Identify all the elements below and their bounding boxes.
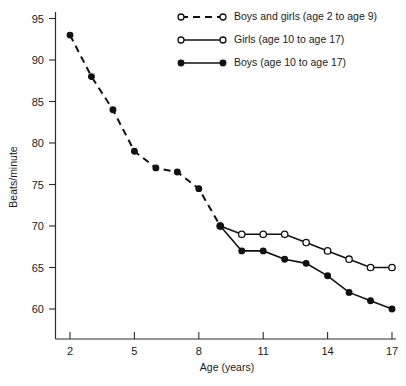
- legend-label: Girls (age 10 to age 17): [234, 33, 344, 45]
- data-point: [367, 264, 373, 270]
- data-point: [325, 273, 331, 279]
- data-point: [110, 107, 116, 113]
- data-point: [196, 186, 202, 192]
- x-tick-label: 14: [321, 345, 333, 357]
- data-point: [89, 74, 95, 80]
- data-series-layer: [67, 32, 395, 312]
- x-tick-label: 5: [131, 345, 137, 357]
- data-point: [239, 231, 245, 237]
- legend-marker-start: [178, 14, 184, 20]
- heart-rate-by-age-chart: 6065707580859095 258111417 Age (years) B…: [0, 0, 406, 386]
- y-tick-label: 90: [32, 54, 44, 66]
- data-point: [239, 248, 245, 254]
- legend-marker-end: [220, 14, 226, 20]
- y-tick-label: 60: [32, 303, 44, 315]
- data-point: [282, 256, 288, 262]
- y-tick-label: 95: [32, 13, 44, 25]
- legend-marker-end: [220, 60, 226, 66]
- chart-legend: Boys and girls (age 2 to age 9)Girls (ag…: [178, 10, 377, 68]
- x-tick-label: 11: [257, 345, 268, 357]
- legend-label: Boys (age 10 to age 17): [234, 56, 346, 68]
- data-point: [153, 165, 159, 171]
- x-axis-title: Age (years): [200, 361, 254, 373]
- data-point: [346, 290, 352, 296]
- data-point: [174, 169, 180, 175]
- y-tick-label: 75: [32, 179, 44, 191]
- data-point: [67, 32, 73, 38]
- data-point: [324, 248, 330, 254]
- data-point: [260, 248, 266, 254]
- y-tick-label: 80: [32, 137, 44, 149]
- data-point: [389, 264, 395, 270]
- data-point: [217, 223, 223, 229]
- x-tick-label: 8: [196, 345, 202, 357]
- x-axis-ticks: 258111417: [67, 332, 398, 357]
- legend-entry-2: Girls (age 10 to age 17): [178, 33, 344, 45]
- legend-entry-1: Boys and girls (age 2 to age 9): [178, 10, 377, 22]
- y-tick-label: 70: [32, 220, 44, 232]
- data-point: [389, 306, 395, 312]
- x-tick-label: 2: [67, 345, 73, 357]
- y-tick-label: 65: [32, 262, 44, 274]
- y-axis: 6065707580859095: [32, 12, 56, 339]
- data-point: [132, 148, 138, 154]
- x-axis: 258111417: [56, 332, 399, 357]
- x-tick-label: 17: [386, 345, 398, 357]
- data-point: [346, 256, 352, 262]
- y-axis-ticks: 6065707580859095: [32, 13, 56, 316]
- data-point: [368, 298, 374, 304]
- data-point: [281, 231, 287, 237]
- data-point: [303, 239, 309, 245]
- legend-label: Boys and girls (age 2 to age 9): [234, 10, 377, 22]
- legend-marker-start: [178, 37, 184, 43]
- legend-marker-start: [178, 60, 184, 66]
- data-point: [260, 231, 266, 237]
- data-point: [303, 260, 309, 266]
- legend-entry-3: Boys (age 10 to age 17): [178, 56, 346, 68]
- series-path: [220, 226, 392, 309]
- chart-canvas: 6065707580859095 258111417 Age (years) B…: [0, 0, 406, 386]
- series-1: [67, 32, 223, 229]
- y-tick-label: 85: [32, 96, 44, 108]
- legend-marker-end: [220, 37, 226, 43]
- y-axis-title: Beats/minute: [7, 146, 19, 207]
